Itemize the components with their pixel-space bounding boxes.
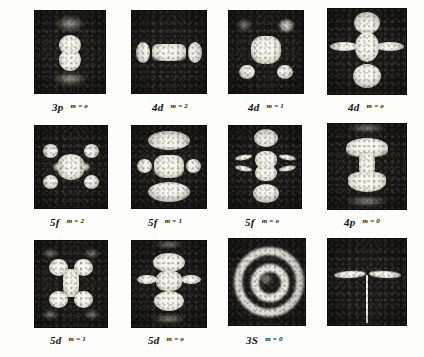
density-cap-bottom	[348, 197, 386, 206]
density-arm-left	[137, 275, 157, 284]
density-bridge-right	[80, 163, 90, 171]
panel-label-4p-m0: 4pm = 0	[344, 212, 380, 230]
panel-4d-m0[interactable]	[327, 8, 407, 95]
panel-4d-m1[interactable]	[228, 10, 304, 94]
density-bar-center	[152, 44, 186, 61]
density-lobe-bottom	[353, 64, 381, 88]
density-lobe-bottom-right	[84, 175, 99, 189]
density-lobe-right	[186, 159, 201, 173]
density-wedge-left	[334, 270, 366, 279]
magnetic-quantum-number: m = 0	[363, 217, 380, 225]
panel-5d-m0[interactable]	[131, 240, 207, 328]
magnetic-quantum-number: m = o	[167, 335, 184, 343]
density-lobe-top-right	[84, 144, 99, 158]
panel-5f-m1[interactable]	[131, 125, 207, 209]
density-bar-bottom	[148, 182, 190, 202]
orbital-name: 5d	[50, 334, 62, 346]
density-cap-top	[350, 124, 384, 132]
vertical-line-marker	[366, 275, 368, 323]
plate-5f-m2	[34, 125, 108, 209]
plate-5d-m1	[34, 240, 108, 328]
orbital-name: 5d	[148, 334, 160, 346]
plate-5f-m0	[228, 125, 302, 209]
density-bar-top	[148, 131, 190, 150]
panel-grid: 3pm = o 4dm = 2	[0, 0, 424, 357]
density-bridge-left	[53, 163, 63, 171]
magnetic-quantum-number: m = 1	[69, 335, 86, 343]
panel-label-4d-m1: 4dm = 1	[248, 97, 284, 115]
orbital-name: 4d	[152, 101, 164, 113]
density-arm-bottom-left	[49, 291, 68, 308]
density-core	[251, 36, 281, 64]
density-spike-right-lower	[279, 165, 297, 173]
panel-label-5d-m0: 5dm = o	[148, 330, 184, 348]
density-wedge-right	[369, 270, 401, 279]
density-lobe-lower	[154, 291, 184, 311]
magnetic-quantum-number: m = o	[367, 102, 384, 110]
panel-label-5f-m2: 5fm = 2	[50, 212, 84, 230]
plate-3p-m0	[34, 10, 106, 94]
plate-5f-m1	[131, 125, 207, 209]
magnetic-quantum-number: m = 1	[165, 217, 182, 225]
density-corner-top-right	[85, 249, 99, 258]
density-core-middle	[156, 271, 182, 291]
panel-3s-m0[interactable]	[228, 238, 306, 326]
density-lobe-bottom-right	[277, 65, 293, 79]
orbital-figure: 3pm = o 4dm = 2	[0, 0, 424, 357]
panel-4d-m2[interactable]	[131, 10, 207, 94]
density-lobe-upper	[153, 253, 185, 272]
density-lobe-right	[188, 42, 202, 63]
panel-4p-m0[interactable]	[327, 123, 407, 210]
magnetic-quantum-number: m = o	[71, 102, 88, 110]
panel-5f-m2[interactable]	[34, 125, 108, 209]
panel-3p-m0[interactable]	[34, 10, 106, 94]
magnetic-quantum-number: m = 0	[265, 335, 282, 343]
density-core-dot	[260, 273, 272, 285]
density-spike-left-upper	[235, 154, 253, 162]
orbital-name: 4p	[344, 216, 356, 228]
density-cap-top	[156, 241, 182, 248]
plate-3s-m0	[228, 238, 306, 326]
panel-label-blank	[348, 330, 355, 348]
density-corner-bottom-right	[85, 310, 99, 319]
density-arm-left	[330, 42, 358, 51]
density-arm-right	[181, 275, 201, 284]
density-lobe-bottom	[253, 184, 279, 203]
plate-5d-m0	[131, 240, 207, 328]
orbital-name: 5f	[50, 216, 60, 228]
panel-blank[interactable]	[327, 238, 407, 326]
density-core	[154, 155, 184, 178]
density-lobe-bottom-left	[239, 65, 255, 79]
panel-label-5f-m0: 5fm = o	[245, 212, 279, 230]
density-lobe-lower	[59, 49, 81, 71]
density-lobe-top-left	[237, 19, 251, 31]
panel-label-4d-m0: 4dm = o	[348, 97, 384, 115]
orbital-name: 4d	[348, 101, 360, 113]
density-foot	[348, 172, 386, 192]
panel-5d-m1[interactable]	[34, 240, 108, 328]
density-lobe-top-left	[43, 144, 58, 158]
density-lobe-bottom-left	[43, 175, 58, 189]
panel-5f-m0[interactable]	[228, 125, 302, 209]
density-lobe-bottom-cap	[55, 73, 85, 85]
magnetic-quantum-number: m = o	[262, 217, 279, 225]
orbital-name: 5f	[245, 216, 255, 228]
density-lobe-top-cap	[57, 16, 83, 31]
density-spike-right-upper	[279, 154, 297, 162]
panel-label-3s-m0: 3Sm = 0	[246, 330, 283, 348]
panel-label-4d-m2: 4dm = 2	[152, 97, 188, 115]
density-lobe-top	[254, 129, 278, 147]
orbital-name: 3S	[246, 334, 258, 346]
magnetic-quantum-number: m = 2	[171, 102, 188, 110]
magnetic-quantum-number: m = 1	[267, 102, 284, 110]
plate-blank	[327, 238, 407, 326]
panel-label-5d-m1: 5dm = 1	[50, 330, 86, 348]
density-core-lower	[255, 165, 277, 181]
density-cap-bottom	[154, 315, 184, 323]
orbital-name: 5f	[148, 216, 158, 228]
panel-label-3p-m0: 3pm = o	[52, 97, 88, 115]
plate-4d-m2	[131, 10, 207, 94]
density-corner-top-left	[43, 249, 57, 258]
density-arm-bottom-right	[74, 291, 93, 308]
magnetic-quantum-number: m = 2	[67, 217, 84, 225]
